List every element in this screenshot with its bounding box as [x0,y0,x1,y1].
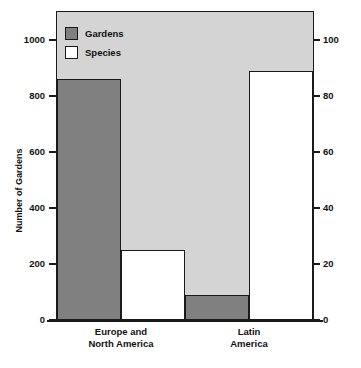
right-axis-tick-mark [313,263,320,265]
left-axis-tick-mark [49,95,56,97]
right-axis-tick-mark [313,319,320,321]
bar-gardens-europe-north-america [57,79,121,320]
left-axis-tick-mark [49,319,56,321]
chart-legend: Gardens Species [65,27,124,65]
left-axis-tick-label: 0 [40,315,45,325]
right-axis-tick-label: 20 [323,259,334,269]
right-axis-tick-mark [313,39,320,41]
right-axis-tick-label: 40 [323,203,334,213]
left-axis-tick-label: 1000 [24,35,45,45]
bar-species-latin-america [249,71,313,320]
category-label-line: North America [61,338,181,350]
legend-label-gardens: Gardens [85,29,124,39]
left-axis-tick-label: 200 [29,259,45,269]
left-axis-tick-label: 600 [29,147,45,157]
right-axis-tick-label: 0 [323,315,328,325]
category-label-line: Latin [189,326,309,338]
right-axis-tick-mark [313,207,320,209]
legend-item-gardens: Gardens [65,27,124,40]
right-axis-tick-mark [313,95,320,97]
legend-item-species: Species [65,46,124,59]
left-axis-tick-mark [49,151,56,153]
right-axis-tick-mark [313,151,320,153]
left-axis-tick-mark [49,39,56,41]
x-axis-line [47,320,323,322]
left-axis-tick-mark [49,207,56,209]
left-axis-tick-label: 800 [29,91,45,101]
left-axis-title: Number of Gardens [15,136,24,246]
legend-swatch-gardens-icon [65,27,78,40]
category-label-line: Europe and [61,326,181,338]
legend-swatch-species-icon [65,46,78,59]
bar-gardens-latin-america [185,295,249,320]
bar-chart: 02004006008001000 020406080100 Number of… [0,0,361,368]
right-axis-tick-label: 80 [323,91,334,101]
category-label-latin-america: Latin America [189,326,309,350]
category-label-line: America [189,338,309,350]
bar-species-europe-north-america [121,250,185,320]
legend-label-species: Species [85,48,121,58]
category-label-europe-north-america: Europe and North America [61,326,181,350]
left-axis-tick-label: 400 [29,203,45,213]
right-axis-tick-label: 60 [323,147,334,157]
right-axis-tick-label: 100 [323,35,339,45]
left-axis-tick-mark [49,263,56,265]
